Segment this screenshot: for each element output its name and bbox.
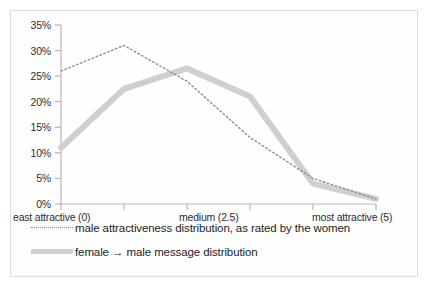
legend-label-female-to-male-messages: female → male message distribution (75, 246, 258, 258)
legend-item-male-attractiveness: male attractiveness distribution, as rat… (11, 216, 419, 240)
y-tick-label-10: 10% (11, 147, 51, 159)
solid-line-swatch-icon (29, 245, 75, 259)
y-tick-label-30: 30% (11, 45, 51, 57)
chart-figure: 35% 30% 25% 20% 15% 10% 5% 0% east attra… (10, 10, 418, 277)
y-tick-label-20: 20% (11, 96, 51, 108)
y-tick-label-0: 0% (11, 198, 51, 210)
series-male-attractiveness (61, 45, 376, 198)
y-tick-label-25: 25% (11, 70, 51, 82)
chart-legend: male attractiveness distribution, as rat… (11, 216, 419, 264)
x-axis-ticks (61, 204, 376, 210)
y-tick-label-5: 5% (11, 172, 51, 184)
y-tick-label-35: 35% (11, 19, 51, 31)
legend-label-male-attractiveness: male attractiveness distribution, as rat… (75, 222, 350, 234)
plot-area: 35% 30% 25% 20% 15% 10% 5% 0% east attra… (11, 11, 419, 211)
y-axis-ticks (55, 25, 61, 204)
y-tick-label-15: 15% (11, 121, 51, 133)
dotted-line-swatch-icon (29, 221, 75, 235)
chart-canvas (11, 11, 419, 211)
series-female-to-male-messages (61, 68, 376, 198)
legend-item-female-to-male-messages: female → male message distribution (11, 240, 419, 264)
